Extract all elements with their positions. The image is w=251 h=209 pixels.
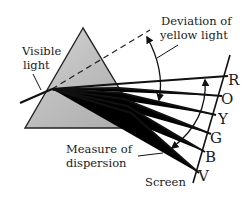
color-label-G: G [210, 129, 222, 147]
visible-light-label-1: Visible [21, 44, 61, 58]
color-label-B: B [205, 148, 216, 166]
deviation-label-2: yellow light [159, 28, 228, 42]
dispersion-leader [138, 153, 163, 156]
deviation-label-1: Deviation of [161, 14, 232, 28]
visible-light-leader [33, 74, 41, 90]
visible-light-label-2: light [23, 58, 50, 72]
measure-label-2: dispersion [66, 156, 127, 170]
measure-label-1: Measure of [66, 142, 133, 156]
screen-label: Screen [145, 175, 186, 189]
color-label-Y: Y [217, 110, 229, 128]
color-label-V: V [197, 167, 210, 185]
prism-dispersion-diagram: Visible light Deviation of yellow light … [0, 0, 251, 209]
color-label-R: R [228, 71, 240, 89]
color-label-O: O [221, 90, 233, 108]
deviation-leader [157, 45, 178, 58]
